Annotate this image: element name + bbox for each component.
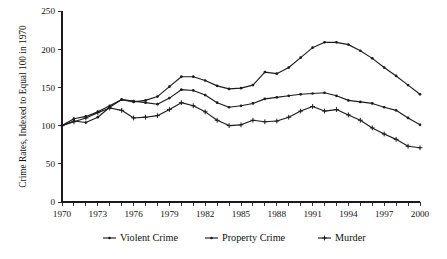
data-point-marker (299, 93, 302, 96)
data-point-marker (96, 116, 99, 119)
data-point-marker (216, 85, 219, 88)
data-point-marker (395, 109, 398, 112)
legend-item-murder[interactable]: Murder (318, 232, 366, 243)
series-line (62, 90, 420, 126)
chart-legend: Violent CrimeProperty CrimeMurder (103, 232, 366, 243)
legend-item-label: Property Crime (222, 232, 286, 243)
data-point-marker (335, 94, 338, 97)
data-point-marker (252, 102, 255, 105)
data-point-marker (240, 104, 243, 107)
y-axis: 050100150200250 (41, 6, 62, 207)
data-point-marker (168, 85, 171, 88)
y-axis-tick-label: 250 (41, 6, 55, 16)
data-point-marker (228, 106, 231, 109)
data-point-marker (299, 56, 302, 59)
data-point-marker (264, 98, 267, 101)
data-point-marker (359, 49, 362, 52)
data-point-marker (359, 101, 362, 104)
chart-figure: 050100150200250 197019731976197919821985… (0, 0, 447, 259)
data-point-marker (287, 94, 290, 97)
data-point-marker (335, 41, 338, 44)
legend-item-violent-crime[interactable]: Violent Crime (103, 232, 178, 243)
data-point-marker (287, 66, 290, 69)
x-axis-tick-label: 2000 (411, 209, 430, 219)
data-point-marker (228, 88, 231, 91)
y-axis-tick-label: 150 (41, 83, 55, 93)
data-point-marker (371, 57, 374, 60)
data-point-marker (323, 91, 326, 94)
plot-series-group (60, 41, 423, 150)
legend-item-label: Violent Crime (120, 232, 178, 243)
data-point-marker (216, 101, 219, 104)
data-point-marker (275, 96, 278, 99)
data-point-marker (347, 99, 350, 102)
x-axis-tick-label: 1994 (339, 209, 358, 219)
data-point-marker (395, 75, 398, 78)
data-point-marker (264, 71, 267, 74)
series-property-crime (61, 88, 422, 127)
data-point-marker (240, 87, 243, 90)
x-axis: 1970197319761979198219851988199119941997… (53, 202, 430, 219)
series-line (62, 42, 420, 125)
crime-rates-line-chart: 050100150200250 197019731976197919821985… (0, 0, 447, 259)
data-point-marker (132, 100, 135, 103)
data-point-marker (347, 43, 350, 46)
y-axis-title: Crime Rates, Indexed to Equal 100 in 197… (18, 25, 28, 188)
data-point-marker (275, 72, 278, 75)
series-violent-crime (61, 41, 422, 127)
data-point-marker (192, 89, 195, 92)
legend-item-property-crime[interactable]: Property Crime (205, 232, 286, 243)
y-axis-title-label: Crime Rates, Indexed to Equal 100 in 197… (18, 25, 28, 188)
data-point-marker (383, 106, 386, 109)
data-point-marker (85, 121, 88, 124)
data-point-marker (180, 88, 183, 91)
y-axis-tick-label: 200 (41, 45, 55, 55)
data-point-marker (383, 66, 386, 69)
x-axis-tick-label: 1997 (375, 209, 394, 219)
data-point-marker (168, 97, 171, 100)
data-point-marker (407, 117, 410, 120)
x-axis-tick-label: 1985 (232, 209, 251, 219)
data-point-marker (311, 46, 314, 49)
series-murder (60, 100, 423, 150)
data-point-marker (311, 92, 314, 95)
legend-item-label: Murder (335, 232, 366, 243)
data-point-marker (120, 98, 123, 101)
y-axis-tick-label: 50 (46, 159, 56, 169)
x-axis-tick-label: 1973 (89, 209, 108, 219)
x-axis-tick-label: 1991 (303, 209, 322, 219)
legend-swatch-marker (108, 237, 111, 240)
x-axis-tick-label: 1988 (268, 209, 287, 219)
data-point-marker (419, 93, 422, 96)
data-point-marker (204, 94, 207, 97)
data-point-marker (371, 102, 374, 105)
data-point-marker (192, 75, 195, 78)
x-axis-tick-label: 1979 (160, 209, 179, 219)
data-point-marker (204, 79, 207, 82)
data-point-marker (156, 103, 159, 106)
x-axis-tick-label: 1976 (124, 209, 143, 219)
data-point-marker (156, 95, 159, 98)
data-point-marker (323, 41, 326, 44)
x-axis-tick-label: 1982 (196, 209, 215, 219)
legend-swatch-marker (210, 237, 213, 240)
x-axis-tick-label: 1970 (53, 209, 72, 219)
data-point-marker (407, 84, 410, 87)
data-point-marker (144, 101, 147, 104)
y-axis-tick-label: 0 (50, 197, 55, 207)
y-axis-tick-label: 100 (41, 121, 55, 131)
data-point-marker (180, 75, 183, 78)
data-point-marker (252, 84, 255, 87)
data-point-marker (419, 123, 422, 126)
